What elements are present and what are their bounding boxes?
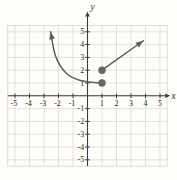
x-tick-label: -3	[40, 99, 47, 108]
y-tick-label: -4	[78, 143, 85, 152]
x-tick-label: 4	[144, 99, 148, 108]
x-tick-label: -5	[11, 99, 18, 108]
y-tick-label: 4	[80, 40, 84, 49]
x-tick-label: 1	[100, 99, 104, 108]
x-axis-label: x	[171, 91, 177, 101]
piecewise-function-graph: -5-4-3-2-112345-5-4-3-2-112345xy	[0, 0, 177, 180]
x-tick-label: 3	[129, 99, 133, 108]
x-tick-label: 2	[115, 99, 119, 108]
x-tick-label: -1	[69, 99, 76, 108]
y-tick-label: -1	[78, 104, 85, 113]
y-tick-label: 2	[80, 66, 84, 75]
x-tick-label: 5	[158, 99, 162, 108]
x-tick-label: -2	[54, 99, 61, 108]
coordinate-grid-figure: -5-4-3-2-112345-5-4-3-2-112345xy	[0, 0, 177, 180]
x-tick-label: -4	[25, 99, 32, 108]
y-tick-label: 5	[80, 27, 84, 36]
endpoint-dot-closed	[99, 80, 105, 86]
y-tick-label: -2	[78, 117, 85, 126]
y-tick-label: -5	[78, 155, 85, 164]
y-tick-label: 3	[80, 53, 84, 62]
figure-background	[0, 0, 177, 180]
y-axis-label: y	[90, 2, 96, 12]
endpoint-dot-closed	[99, 67, 105, 73]
y-tick-label: -3	[78, 130, 85, 139]
